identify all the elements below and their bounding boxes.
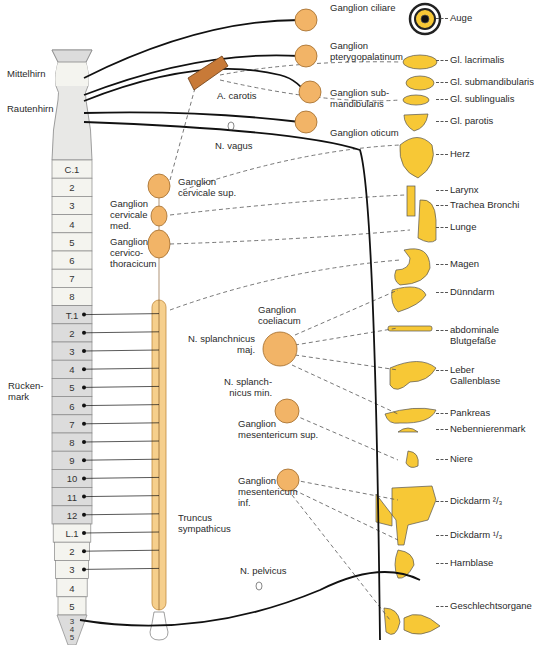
organ-label: Gl. lacrimalis (450, 54, 504, 65)
organ-leader-line (436, 227, 448, 228)
organ-leader-line (436, 82, 448, 83)
organ-leader-line (436, 501, 448, 502)
spinal-segment-label: T.1 (66, 310, 79, 321)
spinal-segment-label: 6 (69, 255, 74, 266)
spinal-segment-label: 6 (69, 401, 74, 412)
preganglionic-nerve (84, 496, 159, 497)
organ-leader-line (436, 606, 448, 607)
organ-label: Pankreas (450, 407, 490, 418)
organ-leader-line (436, 563, 448, 564)
organ-leader-line (436, 190, 448, 191)
organ-leader-line (436, 429, 448, 430)
preganglionic-nerve (84, 405, 159, 406)
label-pelvicus: N. pelvicus (240, 565, 286, 576)
label-splanchnicus-min: N. splanch- nicus min. (224, 376, 272, 398)
spinal-segment-label: 5 (69, 237, 74, 248)
organ-leader-line (436, 60, 448, 61)
organ-label: Dickdarm ¹/₃ (450, 529, 502, 540)
preganglionic-nerve (84, 568, 159, 569)
label-carotis: A. carotis (217, 90, 257, 101)
spinal-segment-label: 7 (69, 273, 74, 284)
spinal-segment-label: 5 (69, 601, 74, 612)
preganglionic-nerve (84, 441, 159, 442)
label-ganglion-ciliare: Ganglion ciliare (330, 2, 395, 13)
organ-leader-line (436, 264, 448, 265)
label-ganglion-cervicale-sup: Ganglion cervicale sup. (178, 176, 236, 198)
preganglionic-fibers (80, 20, 420, 640)
organ-label: Trachea Bronchi (450, 199, 519, 210)
organ-label: Magen (450, 258, 479, 269)
organ-leader-line (436, 154, 448, 155)
organ-leader-line (436, 459, 448, 460)
preganglionic-nerve (84, 314, 159, 315)
organ-leader-line (436, 413, 448, 414)
preganglionic-nerve (84, 350, 159, 351)
organ-label: Nebennierenmark (450, 423, 526, 434)
organ-leader-line (436, 18, 448, 19)
preganglionic-nerve (84, 477, 159, 478)
label-truncus-sympathicus: Truncus sympathicus (178, 512, 231, 534)
preganglionic-nerve (84, 368, 159, 369)
head-ganglia (295, 9, 321, 133)
organ-leader-line (436, 292, 448, 293)
organ-leader-line (436, 205, 448, 206)
spinal-segment-label: 4 (69, 219, 74, 230)
preganglionic-nerve (84, 423, 159, 424)
spinal-segment-label: 8 (69, 437, 74, 448)
organ-leader-line (436, 330, 448, 331)
spinal-segment-label: 2 (69, 182, 74, 193)
organ-label: abdominale Blutgefäße (450, 324, 499, 346)
pelvicus-marker (256, 582, 262, 590)
label-ganglion-coeliacum: Ganglion coeliacum (258, 304, 301, 326)
organ-label: Lunge (450, 221, 476, 232)
spinal-cord (52, 50, 92, 160)
spinal-segment-label: 7 (69, 419, 74, 430)
spinal-segment-label: 8 (69, 291, 74, 302)
organ-leader-line (436, 121, 448, 122)
label-ganglion-cervicothoracicum: Ganglion cervico- thoracicum (110, 236, 156, 269)
spinal-segment-label: 11 (67, 492, 77, 503)
organ-label: Dickdarm ²/₃ (450, 495, 502, 506)
organ-label: Niere (450, 453, 473, 464)
label-ganglion-cervicale-med: Ganglion cervicale med. (110, 198, 148, 231)
spinal-segment-label: 4 (69, 583, 74, 594)
label-ganglion-submandibularis: Ganglion sub- mandibularis (330, 87, 389, 109)
spinal-segment-label: 2 (69, 328, 74, 339)
label-rueckenmark: Rücken- mark (8, 380, 43, 402)
spinal-segment-label: 9 (69, 455, 74, 466)
organ-leader-line (436, 99, 448, 100)
vagus-marker (228, 122, 234, 130)
spinal-segment-label: 4 (69, 364, 74, 375)
thin-nerves (84, 314, 159, 570)
organ-label: Gl. parotis (450, 115, 493, 126)
organ-label: Gl. submandibularis (450, 76, 534, 87)
organ-label: Gl. sublingualis (450, 93, 514, 104)
label-ganglion-oticum: Ganglion oticum (330, 127, 399, 138)
label-splanchnicus-maj: N. splanchnicus maj. (188, 333, 255, 355)
organ-leader-line (436, 370, 448, 371)
prevertebral-ganglia (263, 332, 299, 491)
organ-label: Harnblase (450, 557, 493, 568)
spinal-segment-label: 10 (67, 473, 78, 484)
preganglionic-nerve (84, 459, 159, 460)
spinal-segment-label: 5 (70, 633, 75, 642)
label-ganglion-mesentericum-inf: Ganglion mesentericum inf. (238, 475, 298, 508)
organ-label: Dünndarm (450, 286, 494, 297)
spinal-segment-label: 12 (67, 510, 78, 521)
organ-label: Geschlechtsorgane (450, 600, 532, 611)
spinal-segments: C.12345678T.123456789101112L.12345345 (52, 160, 92, 645)
organ-label: Auge (450, 12, 472, 23)
organ-leader-line (436, 535, 448, 536)
label-ganglion-pterygopalatinum: Ganglion pterygopalatinum (330, 40, 403, 62)
preganglionic-nerve (84, 332, 159, 333)
spinal-segment-label: 3 (69, 200, 74, 211)
label-rautenhirn: Rautenhirn (7, 103, 53, 114)
spinal-segment-label: 3 (69, 346, 74, 357)
preganglionic-nerve (84, 550, 159, 551)
organ-label: Larynx (450, 184, 479, 195)
organ-label: Herz (450, 148, 470, 159)
label-vagus: N. vagus (215, 140, 253, 151)
spinal-segment-label: C.1 (65, 164, 80, 175)
label-ganglion-mesentericum-sup: Ganglion mesentericum sup. (238, 418, 318, 440)
spinal-segment-label: 2 (69, 546, 74, 557)
